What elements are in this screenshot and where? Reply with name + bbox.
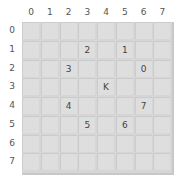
board-cell[interactable]: 7 <box>135 97 152 114</box>
numbered-piece: 7 <box>141 101 147 111</box>
board-cell[interactable]: K <box>97 78 114 95</box>
row-label: 3 <box>6 81 18 91</box>
board-cell[interactable]: 1 <box>116 41 133 58</box>
board-cell[interactable] <box>97 41 114 58</box>
board-cell[interactable] <box>153 97 170 114</box>
column-label: 6 <box>135 7 153 17</box>
board-cell[interactable]: 0 <box>135 60 152 77</box>
board-cell[interactable] <box>116 60 133 77</box>
board-cell[interactable]: 4 <box>60 97 77 114</box>
column-label: 5 <box>116 7 134 17</box>
board-cell[interactable] <box>153 153 170 170</box>
board-cell[interactable] <box>135 116 152 133</box>
board-cell[interactable] <box>135 78 152 95</box>
board-cell[interactable] <box>135 153 152 170</box>
column-label: 3 <box>78 7 96 17</box>
board-cell[interactable] <box>116 153 133 170</box>
board-cell[interactable] <box>41 60 58 77</box>
board-cell[interactable] <box>153 41 170 58</box>
numbered-piece: 3 <box>66 64 72 74</box>
board-cell[interactable]: 5 <box>78 116 95 133</box>
board-cell[interactable] <box>116 97 133 114</box>
board-cell[interactable] <box>60 78 77 95</box>
board-cell[interactable] <box>22 135 39 152</box>
board-cell[interactable] <box>41 116 58 133</box>
board-cell[interactable] <box>97 153 114 170</box>
numbered-piece: 2 <box>84 45 90 55</box>
board-cell[interactable] <box>116 22 133 39</box>
column-label: 2 <box>60 7 78 17</box>
board-cell[interactable] <box>97 97 114 114</box>
board-cell[interactable] <box>41 22 58 39</box>
row-label: 2 <box>6 63 18 73</box>
board-cell[interactable] <box>78 60 95 77</box>
board-cell[interactable] <box>97 22 114 39</box>
numbered-piece: 0 <box>141 64 147 74</box>
board-cell[interactable] <box>116 135 133 152</box>
board-cell[interactable] <box>97 135 114 152</box>
board-cell[interactable] <box>60 135 77 152</box>
board-cell[interactable] <box>153 22 170 39</box>
row-label: 0 <box>6 25 18 35</box>
board-cell[interactable] <box>22 153 39 170</box>
row-label: 7 <box>6 156 18 166</box>
king-piece: K <box>103 82 109 92</box>
board-cell[interactable] <box>116 78 133 95</box>
column-label: 0 <box>22 7 40 17</box>
board-cell[interactable] <box>60 116 77 133</box>
board-cell[interactable]: 6 <box>116 116 133 133</box>
board-cell[interactable] <box>22 97 39 114</box>
column-label: 1 <box>41 7 59 17</box>
board-cell[interactable] <box>41 153 58 170</box>
numbered-piece: 5 <box>84 120 90 130</box>
board-cell[interactable] <box>153 78 170 95</box>
row-label: 6 <box>6 138 18 148</box>
board-cell[interactable] <box>60 41 77 58</box>
board-cell[interactable] <box>41 135 58 152</box>
board-cell[interactable] <box>78 153 95 170</box>
board-cell[interactable] <box>78 22 95 39</box>
board-cell[interactable] <box>97 60 114 77</box>
board-cell[interactable] <box>135 135 152 152</box>
board-cell[interactable] <box>135 22 152 39</box>
numbered-piece: 4 <box>66 101 72 111</box>
board-cell[interactable] <box>22 22 39 39</box>
board-cell[interactable] <box>22 41 39 58</box>
row-label: 1 <box>6 44 18 54</box>
board-cell[interactable] <box>153 116 170 133</box>
row-label: 4 <box>6 100 18 110</box>
row-label: 5 <box>6 119 18 129</box>
board-cell[interactable] <box>60 22 77 39</box>
board-cell[interactable] <box>22 116 39 133</box>
board-cell[interactable] <box>78 135 95 152</box>
board-cell[interactable] <box>41 41 58 58</box>
board-cell[interactable] <box>153 135 170 152</box>
board-cell[interactable] <box>41 97 58 114</box>
column-label: 4 <box>97 7 115 17</box>
board-cell[interactable] <box>78 97 95 114</box>
board-cell[interactable] <box>60 153 77 170</box>
board-cell[interactable] <box>78 78 95 95</box>
board-cell[interactable]: 2 <box>78 41 95 58</box>
column-label: 7 <box>153 7 171 17</box>
board-cell[interactable] <box>41 78 58 95</box>
board-cell[interactable] <box>22 78 39 95</box>
board-cell[interactable] <box>22 60 39 77</box>
board-cell[interactable] <box>153 60 170 77</box>
numbered-piece: 1 <box>122 45 128 55</box>
board-cell[interactable] <box>135 41 152 58</box>
numbered-piece: 6 <box>122 120 128 130</box>
board-cell[interactable] <box>97 116 114 133</box>
board-cell[interactable]: 3 <box>60 60 77 77</box>
game-board: 2130K4756 <box>22 22 174 175</box>
